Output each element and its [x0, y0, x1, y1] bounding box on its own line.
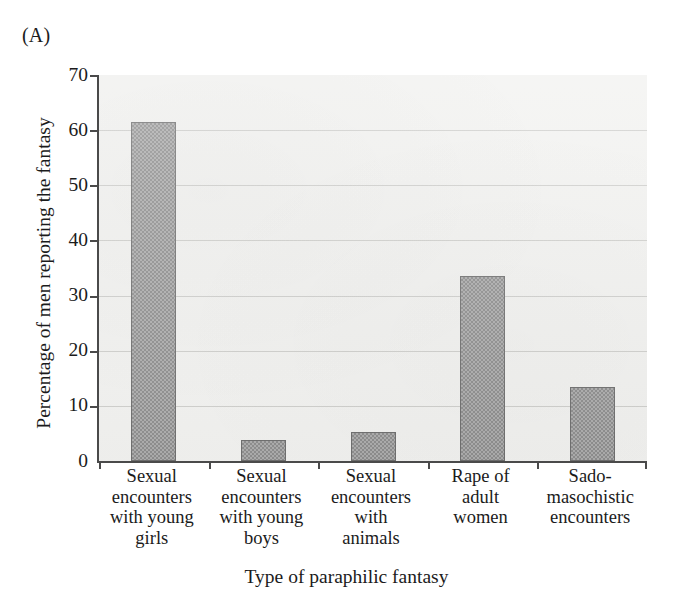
y-tick-50: [90, 185, 99, 187]
x-category-3-line-1: adult: [426, 487, 536, 508]
y-tick-40: [90, 240, 99, 242]
y-tick-20: [90, 351, 99, 353]
x-category-0-line-0: Sexual: [97, 466, 207, 487]
x-tick-5: [645, 461, 647, 469]
panel-label: (A): [22, 24, 50, 47]
x-category-4-line-0: Sado-: [535, 466, 645, 487]
x-category-2: Sexual encounters with animals: [316, 466, 426, 549]
x-category-2-line-1: encounters: [316, 487, 426, 508]
x-category-3: Rape of adult women: [426, 466, 536, 528]
x-category-2-line-0: Sexual: [316, 466, 426, 487]
x-category-4: Sado- masochistic encounters: [535, 466, 645, 528]
bar-rape-of-adult-women: [460, 276, 505, 461]
gridline-20: [99, 351, 647, 352]
gridline-50: [99, 185, 647, 186]
bar-sexual-encounters-young-girls: [131, 122, 176, 461]
x-category-3-line-0: Rape of: [426, 466, 536, 487]
bar-sexual-encounters-animals: [351, 432, 396, 461]
x-category-4-line-2: encounters: [535, 507, 645, 528]
y-tick-label-10: 10: [28, 395, 88, 415]
x-category-1-line-1: encounters: [207, 487, 317, 508]
gridline-10: [99, 406, 647, 407]
x-category-1-line-2: with young: [207, 507, 317, 528]
y-tick-30: [90, 296, 99, 298]
y-tick-label-0: 0: [28, 451, 88, 471]
bar-sado-masochistic-encounters: [570, 387, 615, 461]
x-category-0-line-2: with young: [97, 507, 207, 528]
gridline-60: [99, 130, 647, 131]
y-tick-60: [90, 130, 99, 132]
y-axis-tick-labels: 70 60 50 40 30 20 10 0: [18, 75, 88, 461]
figure-panel-a: (A) Percentage of men reporting the fant…: [0, 0, 693, 604]
y-tick-label-70: 70: [28, 65, 88, 85]
y-tick-label-20: 20: [28, 340, 88, 360]
x-category-2-line-3: animals: [316, 528, 426, 549]
x-category-4-line-1: masochistic: [535, 487, 645, 508]
x-category-0-line-3: girls: [97, 528, 207, 549]
x-axis-title: Type of paraphilic fantasy: [0, 566, 693, 588]
plot-area: [97, 75, 647, 463]
y-tick-label-40: 40: [28, 230, 88, 250]
x-category-1: Sexual encounters with young boys: [207, 466, 317, 549]
y-tick-10: [90, 406, 99, 408]
x-axis-category-labels: Sexual encounters with young girls Sexua…: [97, 466, 645, 558]
x-category-1-line-3: boys: [207, 528, 317, 549]
x-category-1-line-0: Sexual: [207, 466, 317, 487]
y-tick-label-50: 50: [28, 175, 88, 195]
x-category-0-line-1: encounters: [97, 487, 207, 508]
x-category-0: Sexual encounters with young girls: [97, 466, 207, 549]
gridline-30: [99, 296, 647, 297]
bar-sexual-encounters-young-boys: [241, 440, 286, 461]
y-tick-70: [90, 75, 99, 77]
y-tick-label-30: 30: [28, 285, 88, 305]
gridline-40: [99, 240, 647, 241]
x-category-3-line-2: women: [426, 507, 536, 528]
x-category-2-line-2: with: [316, 507, 426, 528]
y-tick-label-60: 60: [28, 120, 88, 140]
